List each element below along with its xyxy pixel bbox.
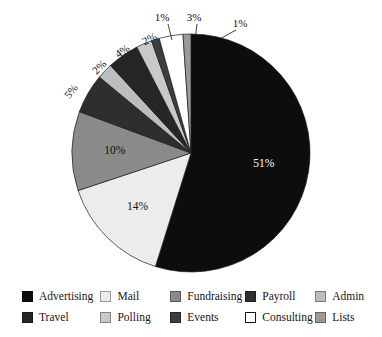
pie-label-fundraising: 10% (104, 144, 126, 156)
legend-swatch-consulting (245, 312, 256, 323)
pie-label-consulting: 3% (187, 11, 202, 23)
legend-swatch-payroll (245, 291, 256, 302)
legend-item-polling[interactable]: Polling (100, 312, 170, 324)
legend-item-lists[interactable]: Lists (315, 312, 368, 324)
legend-swatch-events (170, 312, 181, 323)
legend-swatch-mail (100, 291, 111, 302)
legend-item-consulting[interactable]: Consulting (245, 312, 315, 324)
legend-swatch-admin (315, 291, 326, 302)
legend-label-events: Events (187, 312, 218, 324)
legend-label-advertising: Advertising (39, 291, 93, 303)
legend-label-lists: Lists (332, 312, 354, 324)
legend-item-advertising[interactable]: Advertising (22, 291, 100, 303)
pie-label-lists: 1% (233, 17, 248, 29)
legend-label-fundraising: Fundraising (187, 291, 242, 303)
pie-label-advertising: 51% (253, 157, 275, 169)
legend-item-payroll[interactable]: Payroll (245, 291, 315, 303)
legend-label-consulting: Consulting (262, 312, 312, 324)
pie-label-mail: 14% (127, 200, 149, 212)
legend-swatch-lists (315, 312, 326, 323)
pie-label-payroll: 5% (62, 82, 80, 101)
legend-label-polling: Polling (117, 312, 150, 324)
legend-item-mail[interactable]: Mail (100, 291, 170, 303)
pie-chart-figure: 51%14%10%5%2%4%2%1%3%1% Advertising Mail… (0, 0, 382, 337)
legend-swatch-advertising (22, 291, 33, 302)
legend-item-events[interactable]: Events (170, 312, 245, 324)
legend-label-travel: Travel (39, 312, 69, 324)
legend-label-admin: Admin (332, 291, 364, 303)
legend-item-travel[interactable]: Travel (22, 312, 100, 324)
pie-label-events: 1% (155, 11, 170, 23)
legend-row: Travel Polling Events Consulting Lists (22, 307, 368, 328)
legend-label-mail: Mail (117, 291, 139, 303)
legend-swatch-fundraising (170, 291, 181, 302)
legend-item-fundraising[interactable]: Fundraising (170, 291, 245, 303)
legend-row: Advertising Mail Fundraising Payroll Adm… (22, 286, 368, 307)
legend-swatch-travel (22, 312, 33, 323)
legend-swatch-polling (100, 312, 111, 323)
legend-label-payroll: Payroll (262, 291, 295, 303)
pie-chart-svg: 51%14%10%5%2%4%2%1%3%1% (0, 0, 382, 282)
legend-item-admin[interactable]: Admin (315, 291, 368, 303)
chart-legend: Advertising Mail Fundraising Payroll Adm… (0, 286, 382, 334)
